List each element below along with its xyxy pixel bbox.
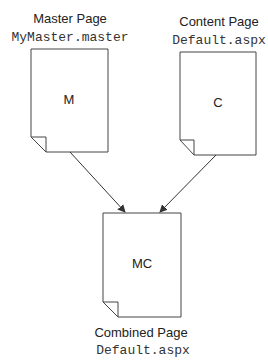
diagram-canvas: M C MC: [0, 0, 268, 363]
content-page-label: C: [213, 95, 222, 110]
master-page-label: M: [64, 92, 75, 107]
arrow-master-to-combined: [70, 152, 125, 212]
arrow-content-to-combined: [160, 155, 216, 212]
combined-page-label: MC: [132, 256, 152, 271]
